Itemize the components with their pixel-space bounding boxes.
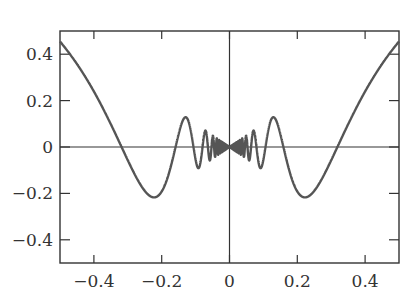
y-tick-label: 0.2 <box>26 91 53 111</box>
x-tick-label: 0.2 <box>284 271 311 291</box>
x-tick-label: −0.2 <box>141 271 182 291</box>
x-axis-ticks: −0.4−0.200.20.4 <box>73 31 378 291</box>
y-tick-label: 0.4 <box>26 44 53 64</box>
y-tick-label: 0 <box>42 137 53 157</box>
y-tick-label: −0.2 <box>12 183 53 203</box>
x-tick-label: −0.4 <box>73 271 114 291</box>
x-tick-label: 0.4 <box>352 271 379 291</box>
line-chart: −0.4−0.200.20.4 0.40.20−0.2−0.4 <box>0 0 412 304</box>
x-tick-label: 0 <box>224 271 235 291</box>
y-tick-label: −0.4 <box>12 230 53 250</box>
